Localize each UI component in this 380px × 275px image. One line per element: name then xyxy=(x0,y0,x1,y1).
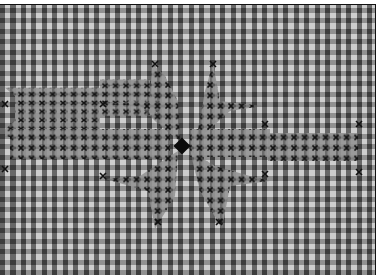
lower-left-petal xyxy=(105,151,178,229)
center-knot xyxy=(174,138,191,155)
cross-stitch-motif xyxy=(0,5,376,275)
right-band xyxy=(190,129,270,157)
right-extension xyxy=(268,133,358,161)
fabric-photo xyxy=(0,4,376,275)
lower-right-petal xyxy=(190,151,270,229)
left-band xyxy=(10,129,170,159)
